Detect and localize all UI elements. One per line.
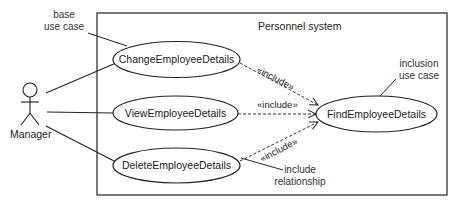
use-case-change[interactable]: ChangeEmployeeDetails	[113, 42, 240, 78]
include-label-delete: «include»	[258, 136, 299, 164]
use-case-label: DeleteEmployeeDetails	[122, 159, 231, 171]
actor-manager[interactable]: Manager	[10, 83, 52, 140]
use-case-label: ChangeEmployeeDetails	[119, 53, 235, 65]
association-delete	[46, 126, 116, 162]
association-view	[47, 112, 113, 113]
system-title: Personnel system	[258, 20, 342, 32]
include-label-view: «include»	[257, 99, 298, 110]
use-case-delete[interactable]: DeleteEmployeeDetails	[113, 148, 240, 183]
annotation-inclusion-use-case: inclusion use case	[380, 58, 439, 96]
svg-text:include: include	[284, 164, 316, 175]
association-change	[46, 63, 116, 93]
use-case-label: FindEmployeeDetails	[327, 108, 426, 120]
svg-text:inclusion: inclusion	[400, 58, 439, 69]
use-case-diagram: Personnel system Manager ChangeEmployeeD…	[0, 0, 454, 207]
svg-text:base: base	[53, 9, 75, 20]
svg-text:use case: use case	[44, 21, 84, 32]
actor-label: Manager	[10, 128, 52, 140]
annotation-include-relationship: include relationship	[241, 158, 326, 187]
associations	[46, 63, 116, 162]
stick-figure-icon	[21, 83, 39, 125]
svg-text:use case: use case	[399, 70, 439, 81]
use-case-view[interactable]: ViewEmployeeDetails	[113, 96, 238, 130]
use-case-find[interactable]: FindEmployeeDetails	[316, 96, 437, 132]
include-label-change: «include»	[255, 64, 296, 92]
svg-text:relationship: relationship	[274, 176, 326, 187]
use-case-label: ViewEmployeeDetails	[125, 107, 226, 119]
annotation-base-use-case: base use case	[44, 9, 127, 46]
